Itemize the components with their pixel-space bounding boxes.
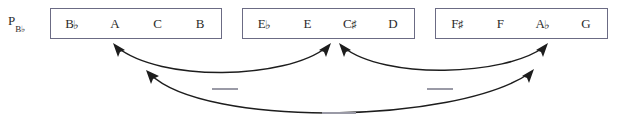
- accidental-flat-icon: ♭: [544, 18, 550, 32]
- arrow-arc-box2-box3: [339, 43, 548, 70]
- tetrachord-box-2: E♭ E C♯ D: [242, 8, 415, 39]
- pitch-1-1: B♭: [51, 17, 94, 30]
- arrow-arc-box1-box2: [113, 43, 331, 73]
- pitch-letter: D: [388, 16, 397, 31]
- tetrachord-box-1: B♭ A C B: [50, 8, 222, 39]
- accidental-sharp-icon: ♯: [351, 18, 357, 30]
- accidental-sharp-icon: ♯: [458, 18, 464, 30]
- pitch-3-3: A♭: [522, 17, 565, 30]
- arrowhead-right-icon: [319, 43, 331, 57]
- row-label: PB♭: [8, 14, 25, 31]
- tetrachord-box-3: F♯ F A♭ G: [435, 8, 608, 39]
- pitch-letter: E: [303, 16, 311, 31]
- pitch-3-1: F♯: [436, 17, 479, 30]
- pitch-2-3: C♯: [329, 17, 372, 30]
- pitch-letter: B: [196, 16, 205, 31]
- pitch-2-1: E♭: [243, 17, 286, 30]
- arrowhead-right-icon: [536, 43, 548, 57]
- blank-label-bottom: [322, 112, 356, 114]
- diagram-canvas: PB♭ B♭ A C B E♭ E C♯ D F♯ F A♭ G: [0, 0, 622, 134]
- pitch-3-2: F: [479, 17, 522, 30]
- blank-label-right: [427, 88, 453, 90]
- arrowhead-right-icon: [522, 69, 534, 83]
- pitch-2-4: D: [371, 17, 414, 30]
- arrow-arc-box1-box3: [146, 69, 534, 113]
- row-label-subscript: B♭: [15, 24, 25, 34]
- pitch-1-4: B: [179, 17, 222, 30]
- pitch-3-4: G: [564, 17, 607, 30]
- pitch-letter: G: [581, 16, 590, 31]
- accidental-flat-icon: ♭: [73, 18, 79, 32]
- arrowhead-left-icon: [113, 43, 125, 57]
- accidental-flat-icon: ♭: [265, 18, 271, 32]
- arrowhead-left-icon: [339, 43, 351, 57]
- pitch-letter: A: [110, 16, 119, 31]
- pitch-letter: F: [497, 16, 504, 31]
- pitch-1-2: A: [94, 17, 137, 30]
- pitch-letter: C: [153, 16, 162, 31]
- pitch-2-2: E: [286, 17, 329, 30]
- arrowhead-left-icon: [146, 70, 159, 84]
- blank-label-left: [212, 88, 238, 90]
- pitch-1-3: C: [136, 17, 179, 30]
